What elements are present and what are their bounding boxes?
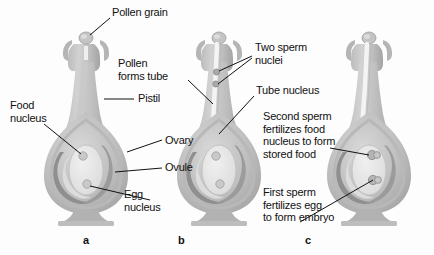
label-pollen-forms-tube: Pollen forms tube [118, 57, 168, 82]
panel-a-artwork [44, 32, 128, 226]
leader-ovary [127, 140, 162, 152]
label-pollen-grain: Pollen grain [112, 6, 168, 19]
leader-pollen-grain [90, 18, 110, 35]
label-egg-nucleus: Egg nucleus [124, 188, 161, 213]
label-first-sperm: First sperm fertilizes egg to form embry… [263, 186, 334, 224]
panel-letter-b: b [178, 234, 185, 246]
diagram-artwork [0, 0, 434, 255]
label-food-nucleus: Food nucleus [10, 99, 47, 124]
label-ovary: Ovary [165, 134, 193, 147]
panel-c-artwork [327, 32, 411, 226]
figure-canvas: Pollen grain Pistil Food nucleus Ovary O… [0, 0, 434, 255]
panel-letter-c: c [305, 234, 311, 246]
label-pistil: Pistil [138, 92, 160, 105]
label-ovule: Ovule [165, 161, 193, 174]
label-second-sperm: Second sperm fertilizes food nucleus to … [263, 110, 335, 160]
label-two-sperm-nuclei: Two sperm nuclei [255, 41, 307, 66]
label-tube-nucleus: Tube nucleus [256, 84, 319, 97]
panel-letter-a: a [83, 234, 89, 246]
